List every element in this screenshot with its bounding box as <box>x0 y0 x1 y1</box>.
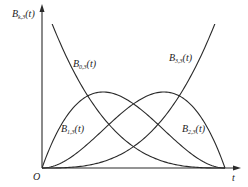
x-axis-arrow-icon <box>233 166 241 171</box>
y-axis-label: Bk,3(t) <box>12 8 35 20</box>
b03-label: B0,3(t) <box>73 58 97 70</box>
curves <box>42 0 225 168</box>
b13-label: B1,3(t) <box>61 123 85 135</box>
origin-label: O <box>33 171 40 182</box>
b33-label: B3,3(t) <box>169 52 193 64</box>
b33-curve <box>42 0 225 168</box>
axes <box>42 10 234 168</box>
y-axis-arrow-icon <box>40 4 45 12</box>
b03-curve <box>42 0 225 168</box>
b23-label: B2,3(t) <box>182 123 206 135</box>
x-axis-label: t <box>232 172 235 183</box>
bernstein-basis-chart: Bk,3(t) B0,3(t) B3,3(t) B1,3(t) B2,3(t) … <box>0 0 248 187</box>
